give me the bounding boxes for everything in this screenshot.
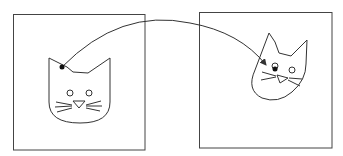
- right-cat-whisker: [288, 80, 300, 86]
- right-cat-whisker: [262, 72, 276, 76]
- right-keypoint: [273, 67, 278, 72]
- left-cat-eye-right: [86, 90, 92, 96]
- left-cat-head-outline: [49, 58, 110, 123]
- diagram-canvas: [0, 0, 343, 156]
- right-cat-whisker: [289, 78, 302, 79]
- left-cat-whisker: [86, 108, 100, 111]
- right-cat-nose: [277, 75, 288, 83]
- right-cat-whisker: [261, 77, 276, 80]
- left-cat-whisker: [56, 102, 72, 105]
- right-cat-eye-right: [289, 67, 295, 73]
- left-cat-whisker: [57, 108, 72, 112]
- left-cat-whisker: [55, 106, 72, 107]
- left-cat-face: [49, 58, 110, 123]
- left-frame: [14, 15, 146, 151]
- left-keypoint: [60, 65, 65, 70]
- right-cat-face: [252, 33, 307, 100]
- left-cat-nose: [73, 101, 85, 108]
- right-cat-head-outline: [252, 33, 307, 100]
- left-cat-whisker: [86, 101, 101, 105]
- left-cat-eye-left: [67, 90, 73, 96]
- right-frame: [200, 13, 333, 149]
- correspondence-arrow: [62, 20, 266, 67]
